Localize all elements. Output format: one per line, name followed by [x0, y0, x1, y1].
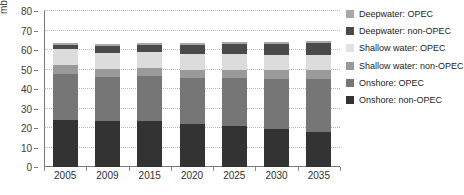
bar-segment[interactable]	[264, 70, 289, 79]
y-tick-label-80: 80	[21, 6, 32, 17]
legend-label: Onshore: non-OPEC	[359, 95, 442, 105]
legend-swatch-icon	[346, 79, 354, 87]
bar-segment[interactable]	[180, 70, 205, 79]
bar-segment[interactable]	[306, 41, 331, 43]
legend-item[interactable]: Onshore: OPEC	[346, 74, 464, 91]
legend-swatch-icon	[346, 44, 354, 52]
x-tick-label-2030: 2030	[255, 170, 299, 181]
bar-segment[interactable]	[180, 43, 205, 45]
bar-segment[interactable]	[137, 52, 162, 68]
bar-segment[interactable]	[95, 121, 120, 167]
legend-item[interactable]: Deepwater: non-OPEC	[346, 22, 464, 39]
y-tick-mark-30	[34, 109, 38, 110]
bar-segment[interactable]	[180, 78, 205, 124]
stacked-bar-chart: mb/d 01020304050607080 20052009201520202…	[0, 0, 464, 195]
y-tick-label-70: 70	[21, 25, 32, 36]
bar-2020[interactable]	[180, 11, 205, 167]
bar-segment[interactable]	[264, 129, 289, 167]
y-tick-mark-80	[34, 11, 38, 12]
plot-area	[44, 11, 340, 167]
bar-2015[interactable]	[137, 11, 162, 167]
legend-label: Deepwater: non-OPEC	[359, 26, 451, 36]
bar-segment[interactable]	[53, 49, 78, 65]
y-tick-label-60: 60	[21, 45, 32, 56]
bar-segment[interactable]	[53, 120, 78, 167]
x-tick-label-2005: 2005	[43, 170, 87, 181]
legend-swatch-icon	[346, 96, 354, 104]
bar-segment[interactable]	[222, 42, 247, 44]
chart-legend: Deepwater: OPECDeepwater: non-OPECShallo…	[346, 5, 464, 109]
bar-segment[interactable]	[180, 54, 205, 70]
legend-swatch-icon	[346, 10, 354, 18]
x-tick-label-2009: 2009	[85, 170, 129, 181]
legend-label: Onshore: OPEC	[359, 78, 424, 88]
bar-2030[interactable]	[264, 11, 289, 167]
chart-title-cropped	[60, 0, 270, 6]
bar-segment[interactable]	[306, 132, 331, 167]
legend-item[interactable]: Shallow water: non-OPEC	[346, 57, 464, 74]
bar-segment[interactable]	[95, 77, 120, 121]
bar-segment[interactable]	[137, 76, 162, 121]
bar-segment[interactable]	[264, 55, 289, 71]
bar-segment[interactable]	[53, 74, 78, 120]
bar-2025[interactable]	[222, 11, 247, 167]
bar-segment[interactable]	[222, 54, 247, 70]
y-tick-mark-0	[34, 167, 38, 168]
legend-label: Shallow water: non-OPEC	[359, 61, 464, 71]
legend-label: Shallow water: OPEC	[359, 43, 446, 53]
y-tick-label-0: 0	[26, 162, 32, 173]
legend-swatch-icon	[346, 27, 354, 35]
bar-segment[interactable]	[137, 45, 162, 52]
y-tick-mark-10	[34, 148, 38, 149]
y-tick-label-30: 30	[21, 103, 32, 114]
bar-segment[interactable]	[95, 53, 120, 69]
legend-item[interactable]: Onshore: non-OPEC	[346, 91, 464, 108]
bar-segment[interactable]	[137, 43, 162, 45]
y-tick-mark-70	[34, 31, 38, 32]
bar-segment[interactable]	[53, 43, 78, 45]
y-axis-ticks: 01020304050607080	[0, 11, 38, 167]
bar-segment[interactable]	[53, 65, 78, 75]
bar-segment[interactable]	[95, 44, 120, 46]
y-tick-mark-40	[34, 89, 38, 90]
y-tick-mark-20	[34, 128, 38, 129]
legend-swatch-icon	[346, 62, 354, 70]
y-tick-label-50: 50	[21, 64, 32, 75]
y-tick-mark-50	[34, 70, 38, 71]
bar-series-container	[44, 11, 340, 167]
bar-segment[interactable]	[264, 44, 289, 55]
bar-segment[interactable]	[95, 46, 120, 53]
y-tick-label-40: 40	[21, 84, 32, 95]
x-tick-label-2015: 2015	[128, 170, 172, 181]
legend-item[interactable]: Deepwater: OPEC	[346, 5, 464, 22]
x-tick-label-2035: 2035	[297, 170, 341, 181]
bar-segment[interactable]	[306, 55, 331, 71]
bar-segment[interactable]	[222, 78, 247, 126]
bar-segment[interactable]	[137, 68, 162, 77]
bar-segment[interactable]	[222, 44, 247, 54]
legend-item[interactable]: Shallow water: OPEC	[346, 40, 464, 57]
bar-segment[interactable]	[306, 70, 331, 79]
bar-2009[interactable]	[95, 11, 120, 167]
bar-segment[interactable]	[53, 45, 78, 49]
bar-segment[interactable]	[306, 79, 331, 132]
y-tick-label-20: 20	[21, 123, 32, 134]
bar-segment[interactable]	[137, 121, 162, 167]
bar-segment[interactable]	[306, 43, 331, 55]
bar-segment[interactable]	[222, 70, 247, 79]
legend-label: Deepwater: OPEC	[359, 9, 433, 19]
bar-segment[interactable]	[180, 45, 205, 54]
bar-segment[interactable]	[264, 42, 289, 44]
bar-segment[interactable]	[95, 69, 120, 78]
bar-segment[interactable]	[264, 79, 289, 129]
x-tick-label-2025: 2025	[212, 170, 256, 181]
bar-2005[interactable]	[53, 11, 78, 167]
y-tick-label-10: 10	[21, 142, 32, 153]
bar-segment[interactable]	[180, 124, 205, 167]
bar-segment[interactable]	[222, 126, 247, 167]
bar-2035[interactable]	[306, 11, 331, 167]
x-tick-label-2020: 2020	[170, 170, 214, 181]
y-tick-mark-60	[34, 50, 38, 51]
